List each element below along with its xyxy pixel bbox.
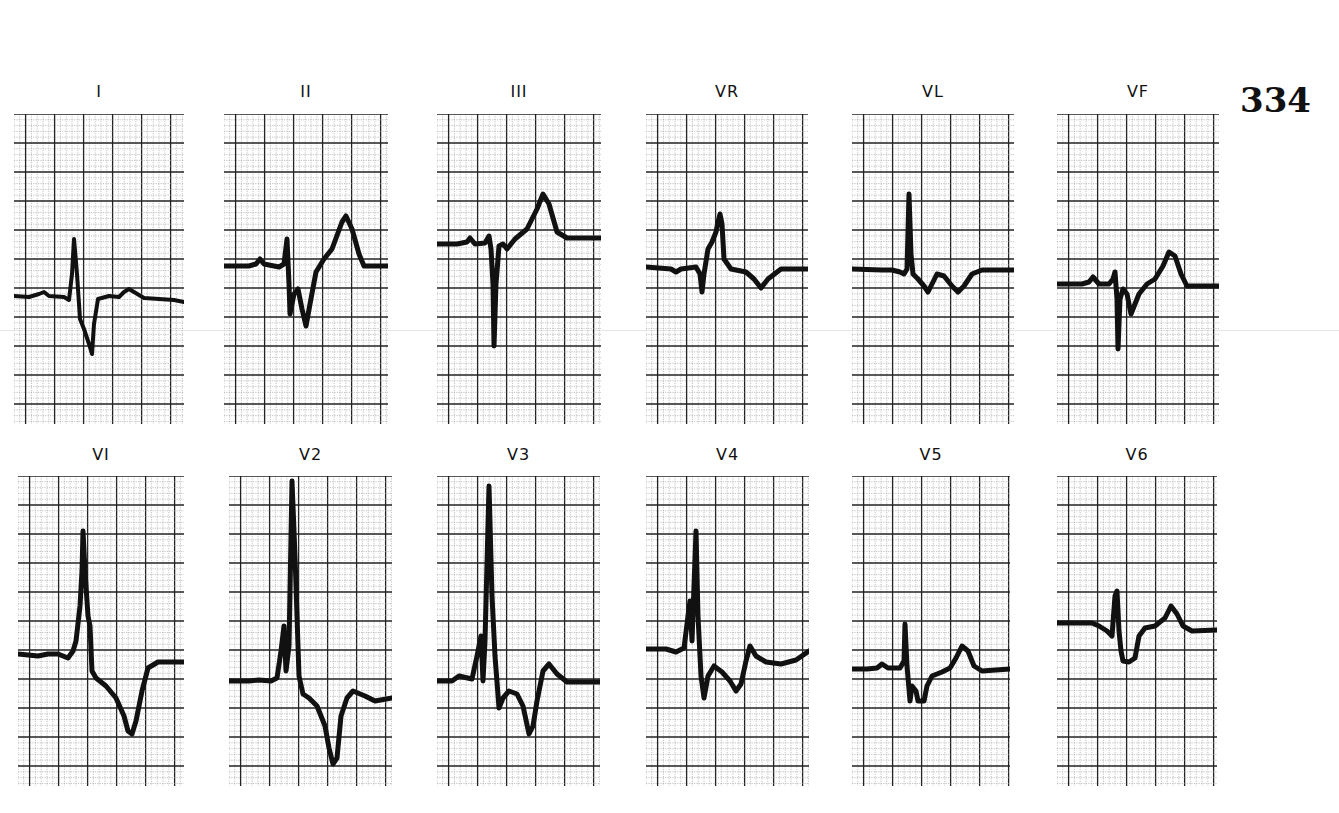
ecg-panel-v3 xyxy=(437,476,600,786)
ecg-panel-v4 xyxy=(646,476,809,786)
lead-label-v2: V2 xyxy=(231,445,391,464)
lead-label-v5: V5 xyxy=(851,445,1011,464)
ecg-trace-v3 xyxy=(437,486,600,734)
lead-label-ii: II xyxy=(226,82,386,101)
ecg-panel-v5 xyxy=(852,476,1010,786)
ecg-panel-vl xyxy=(852,114,1014,424)
ecg-grid-v5 xyxy=(852,476,1010,786)
lead-label-vr: VR xyxy=(647,82,807,101)
ecg-grid-iii xyxy=(437,114,601,424)
lead-label-vf: VF xyxy=(1058,82,1218,101)
ecg-grid-vl xyxy=(852,114,1014,424)
ecg-panel-i xyxy=(14,114,184,424)
ecg-panel-v1 xyxy=(18,476,184,786)
ecg-panel-v6 xyxy=(1057,476,1217,786)
ecg-panel-ii xyxy=(224,114,388,424)
ecg-grid-i xyxy=(14,114,184,424)
ecg-panel-v2 xyxy=(229,476,392,786)
ecg-trace-v2 xyxy=(229,481,392,764)
ecg-grid-ii xyxy=(224,114,388,424)
ecg-grid-v1 xyxy=(18,476,184,786)
lead-label-vl: VL xyxy=(853,82,1013,101)
figure-number: 334 xyxy=(1240,80,1311,120)
ecg-trace-i xyxy=(14,239,184,354)
ecg-grid-v3 xyxy=(437,476,600,786)
lead-label-v1: VI xyxy=(21,445,181,464)
lead-label-iii: III xyxy=(439,82,599,101)
ecg-grid-v4 xyxy=(646,476,809,786)
lead-label-v3: V3 xyxy=(439,445,599,464)
ecg-grid-vr xyxy=(646,114,808,424)
ecg-panel-vf xyxy=(1057,114,1219,424)
lead-label-i: I xyxy=(19,82,179,101)
ecg-grid-v6 xyxy=(1057,476,1217,786)
ecg-grid-v2 xyxy=(229,476,392,786)
ecg-grid-vf xyxy=(1057,114,1219,424)
ecg-panel-vr xyxy=(646,114,808,424)
ecg-trace-v5 xyxy=(852,624,1010,701)
ecg-panel-iii xyxy=(437,114,601,424)
lead-label-v4: V4 xyxy=(648,445,808,464)
lead-label-v6: V6 xyxy=(1057,445,1217,464)
